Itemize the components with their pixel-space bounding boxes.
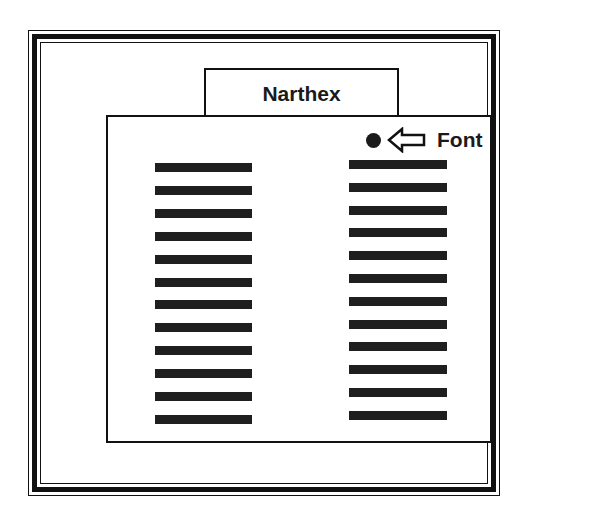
left-arrow-icon xyxy=(387,127,427,153)
narthex-tab[interactable]: Narthex xyxy=(204,68,399,117)
text-line-bar xyxy=(155,232,252,241)
text-line-bar xyxy=(155,415,252,424)
text-line-bar xyxy=(155,369,252,378)
text-line-bar xyxy=(349,206,447,215)
text-line-bar xyxy=(155,392,252,401)
bullet-icon xyxy=(366,133,381,148)
text-line-bar xyxy=(155,163,252,172)
text-line-bar xyxy=(349,183,447,192)
content-panel: Font xyxy=(106,115,492,443)
text-line-bar xyxy=(155,323,252,332)
text-line-bar xyxy=(349,365,447,374)
tab-label: Narthex xyxy=(262,82,340,106)
text-line-bar xyxy=(349,342,447,351)
text-line-bar xyxy=(349,228,447,237)
text-line-bar xyxy=(155,300,252,309)
text-line-bar xyxy=(349,274,447,283)
text-line-bar xyxy=(155,278,252,287)
font-label: Font xyxy=(437,128,482,152)
text-line-bar xyxy=(349,320,447,329)
text-line-bar xyxy=(155,346,252,355)
text-line-bar xyxy=(349,297,447,306)
text-line-bar xyxy=(349,251,447,260)
text-line-bar xyxy=(349,388,447,397)
font-pointer: Font xyxy=(366,127,482,153)
text-line-bar xyxy=(155,255,252,264)
text-line-bar xyxy=(349,160,447,169)
text-line-bar xyxy=(349,411,447,420)
text-line-bar xyxy=(155,209,252,218)
text-line-bar xyxy=(155,186,252,195)
